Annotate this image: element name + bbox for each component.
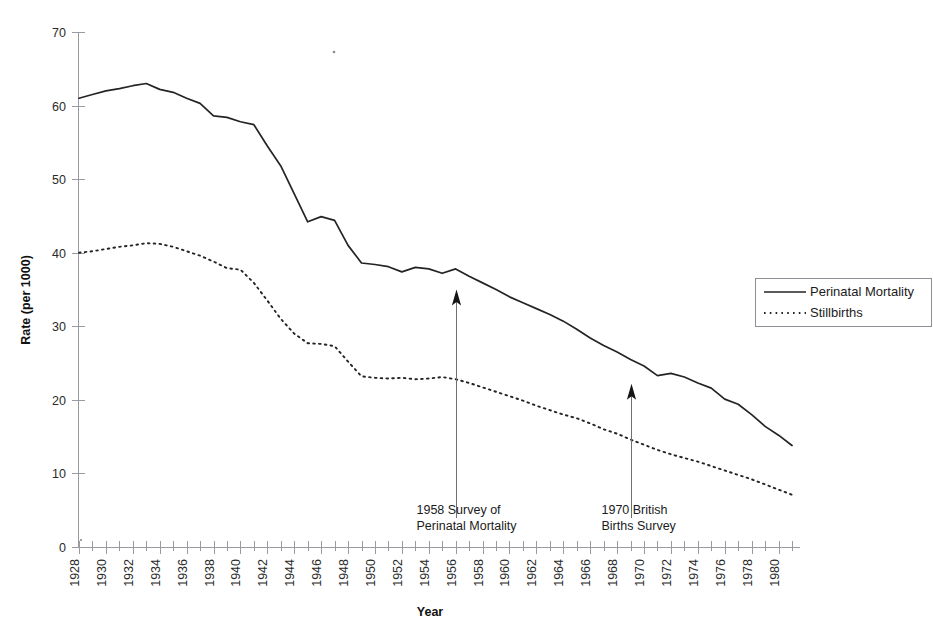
x-tick-label-1938: 1938 [203,559,217,587]
x-tick-label-1964: 1964 [552,559,566,587]
y-tick-label-10: 10 [52,467,66,481]
y-tick-label-0: 0 [59,541,66,555]
x-tick-label-1954: 1954 [418,559,432,587]
x-tick-label-1962: 1962 [525,559,539,587]
annot-1970-survey-line2: Births Survey [602,519,677,533]
x-tick-label-1946: 1946 [310,559,324,587]
annotations-group: 1958 Survey ofPerinatal Mortality1970 Br… [417,290,677,534]
x-axis-title: Year [417,605,444,619]
legend-label-perinatal-mortality: Perinatal Mortality [810,284,915,299]
x-tick-label-1972: 1972 [660,559,674,587]
x-tick-label-1950: 1950 [364,559,378,587]
annot-1958-survey-line1: 1958 Survey of [417,503,502,517]
x-tick-label-1936: 1936 [176,559,190,587]
series-line-stillbirths [79,243,792,495]
x-tick-label-1976: 1976 [714,559,728,587]
x-tick-label-1932: 1932 [122,559,136,587]
y-tick-label-50: 50 [52,173,66,187]
y-tick-label-20: 20 [52,394,66,408]
legend-label-stillbirths: Stillbirths [810,305,863,320]
y-tick-label-70: 70 [52,26,66,40]
x-tick-label-1980: 1980 [768,559,782,587]
x-tick-label-1934: 1934 [149,559,163,587]
x-tick-label-1942: 1942 [256,559,270,587]
chart-container: 706050403020100 192819301932193419361938… [0,0,933,636]
series-line-perinatal-mortality [79,84,792,446]
x-tick-label-1966: 1966 [579,559,593,587]
x-tick-label-1974: 1974 [687,559,701,587]
x-tick-label-1978: 1978 [741,559,755,587]
x-tick-label-1952: 1952 [391,559,405,587]
x-axis-tick-labels: 1928193019321934193619381940194219441946… [68,559,782,587]
scan-speck [80,539,82,541]
annot-1958-survey-line2: Perinatal Mortality [417,519,518,533]
x-tick-label-1958: 1958 [472,559,486,587]
scan-speck [333,51,336,54]
x-tick-label-1944: 1944 [283,559,297,587]
perinatal-mortality-line-chart: 706050403020100 192819301932193419361938… [0,0,933,636]
x-tick-label-1960: 1960 [498,559,512,587]
y-tick-label-60: 60 [52,100,66,114]
x-tick-label-1928: 1928 [68,559,82,587]
chart-legend: Perinatal Mortality Stillbirths [756,279,932,327]
annot-1970-survey-line1: 1970 British [602,503,668,517]
y-tick-label-30: 30 [52,320,66,334]
y-tick-label-40: 40 [52,247,66,261]
y-axis-title: Rate (per 1000) [19,255,33,345]
y-axis-tick-labels: 706050403020100 [52,26,66,555]
x-tick-label-1930: 1930 [95,559,109,587]
x-tick-label-1968: 1968 [606,559,620,587]
x-tick-label-1948: 1948 [337,559,351,587]
x-tick-label-1956: 1956 [445,559,459,587]
data-series-group [79,84,792,495]
x-tick-label-1940: 1940 [229,559,243,587]
x-tick-label-1970: 1970 [633,559,647,587]
